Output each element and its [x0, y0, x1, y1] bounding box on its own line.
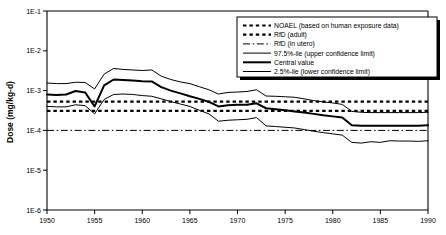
y-axis-title-label: Dose (mg/kg-d) — [5, 81, 15, 143]
dose-trend-chart: Dose (mg/kg-d) 1E-11E-21E-31E-41E-51E-6 … — [0, 0, 446, 235]
legend-item-label: RfD (in utero) — [274, 40, 315, 48]
x-tick-label: 1955 — [87, 217, 103, 224]
y-tick-label: 1E-2 — [26, 47, 41, 54]
legend-box: NOAEL (based on human exposure data)RfD … — [237, 17, 440, 80]
y-tick-label: 1E-3 — [26, 87, 41, 94]
legend-item-label: Central value — [274, 59, 314, 66]
figure-container: Dose (mg/kg-d) 1E-11E-21E-31E-41E-51E-6 … — [0, 0, 446, 235]
x-tick-label: 1990 — [420, 217, 436, 224]
y-tick-label: 1E-5 — [26, 167, 41, 174]
legend-item-label: 2.5%-ile (lower confidence limit) — [274, 68, 370, 76]
legend-item-label: NOAEL (based on human exposure data) — [274, 22, 399, 30]
x-tick-label: 1960 — [134, 217, 150, 224]
legend-item-label: RfD (adult) — [274, 31, 307, 39]
x-tick-label: 1975 — [277, 217, 293, 224]
y-axis-title: Dose (mg/kg-d) — [5, 81, 15, 143]
x-tick-label: 1970 — [230, 217, 246, 224]
x-tick-label: 1980 — [325, 217, 341, 224]
legend-item-label: 97.5%-ile (upper confidence limit) — [274, 50, 375, 58]
x-tick-label: 1965 — [182, 217, 198, 224]
y-tick-label: 1E-1 — [26, 8, 41, 15]
x-tick-label: 1950 — [39, 217, 55, 224]
x-tick-label: 1985 — [373, 217, 389, 224]
y-tick-label: 1E-6 — [26, 207, 41, 214]
y-tick-label: 1E-4 — [26, 127, 41, 134]
